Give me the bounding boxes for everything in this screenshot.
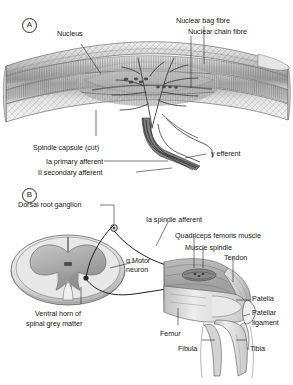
label-gamma-efferent: γ efferent bbox=[211, 150, 240, 159]
label-ia-primary-afferent: Ia primary afferent bbox=[46, 158, 103, 167]
panel-tag-a: A bbox=[22, 18, 37, 33]
label-nuclear-chain-fibre: Nuclear chain fibre bbox=[188, 28, 247, 37]
spindle-left-end bbox=[3, 66, 6, 122]
label-ia-spindle-afferent: Ia spindle afferent bbox=[146, 216, 202, 225]
label-patella: Patella bbox=[252, 295, 274, 304]
label-femur: Femur bbox=[160, 330, 181, 339]
label-alpha-motor-neuron-line2: neuron bbox=[126, 266, 148, 275]
label-patellar-ligament-line1: Patellar bbox=[252, 309, 276, 318]
label-tendon: Tendon bbox=[224, 254, 247, 263]
label-nucleus: Nucleus bbox=[57, 30, 83, 39]
label-quadriceps-femoris-muscle: Quadriceps femoris muscle bbox=[175, 232, 261, 241]
muscle-spindle-inset bbox=[182, 269, 216, 281]
nerve-trunk bbox=[142, 114, 213, 170]
label-tibia: Tibia bbox=[250, 345, 265, 354]
label-ventral-horn-line2: spinal grey matter bbox=[26, 320, 82, 329]
label-muscle-spindle: Muscle spindle bbox=[185, 244, 232, 253]
central-canal bbox=[64, 262, 72, 266]
label-patellar-ligament-line2: ligament bbox=[252, 319, 279, 328]
spinal-cord-cross-section bbox=[11, 235, 125, 305]
label-ii-secondary-afferent: II secondary afferent bbox=[38, 169, 102, 178]
fibula-bone bbox=[204, 324, 221, 376]
label-dorsal-root-ganglion: Dorsal root ganglion bbox=[18, 201, 81, 210]
label-spindle-capsule-cut: Spindle capsule (cut) bbox=[33, 144, 99, 153]
label-ventral-horn-line1: Ventral horn of bbox=[35, 310, 81, 319]
label-fibula: Fibula bbox=[178, 345, 197, 354]
label-nuclear-bag-fibre: Nuclear bag fibre bbox=[176, 17, 230, 26]
